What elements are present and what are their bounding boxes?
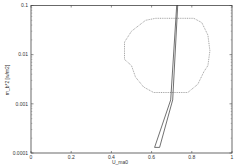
boundary-region-line bbox=[125, 18, 210, 92]
y-tick-label: 0.01 bbox=[18, 51, 28, 57]
x-axis-label: U_ma0 bbox=[112, 159, 128, 165]
series-layer bbox=[125, 6, 210, 148]
x-tick-label: 0.6 bbox=[148, 154, 155, 160]
plot-frame bbox=[31, 6, 232, 154]
y-tick-label: 0.0001 bbox=[13, 150, 29, 156]
y-tick-label: 0.1 bbox=[21, 2, 28, 8]
x-tick-label: 0 bbox=[30, 154, 33, 160]
x-tick-label: 0.8 bbox=[188, 154, 195, 160]
y-axis-label: m_b*2 [w/m2] bbox=[4, 64, 10, 95]
narrow-loop-line bbox=[155, 6, 178, 148]
y-axis-ticks: 0.10.010.0010.0001 bbox=[13, 2, 232, 156]
x-axis-ticks: 00.20.40.60.81 bbox=[30, 6, 234, 161]
x-tick-label: 1 bbox=[231, 154, 234, 160]
y-tick-label: 0.001 bbox=[15, 101, 28, 107]
chart: 00.20.40.60.81 0.10.010.0010.0001 U_ma0 … bbox=[0, 0, 236, 165]
x-tick-label: 0.2 bbox=[68, 154, 75, 160]
